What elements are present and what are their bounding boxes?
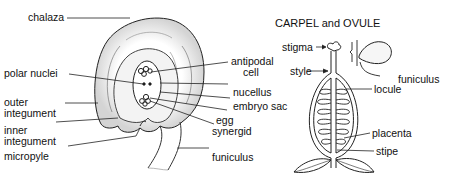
- label-antipodal-cell-line2: cell: [243, 67, 259, 78]
- label-nucellus: nucellus: [233, 87, 272, 98]
- label-style: style: [290, 66, 312, 77]
- right-leaf: [336, 159, 374, 173]
- carpel-title: CARPEL and OVULE: [275, 17, 380, 29]
- label-chalaza: chalaza: [28, 12, 64, 23]
- label-inner-integument-line2: integument: [4, 136, 56, 147]
- label-synergid: synergid: [212, 126, 252, 137]
- ovule-illustration: [56, 18, 230, 170]
- style-shape: [331, 51, 336, 73]
- label-outer-integument-line2: integument: [4, 108, 56, 119]
- label-micropyle: micropyle: [4, 151, 49, 162]
- label-placenta: placenta: [372, 128, 412, 139]
- label-locule: locule: [374, 84, 401, 95]
- label-embryo-sac: embryo sac: [233, 101, 287, 112]
- label-stipe: stipe: [376, 146, 398, 157]
- embryo-sac-shape: [133, 61, 161, 109]
- label-polar-nuclei: polar nuclei: [4, 68, 58, 79]
- label-funiculus-ovule: funiculus: [212, 152, 253, 163]
- label-funiculus-carpel: funiculus: [398, 74, 439, 85]
- label-stigma: stigma: [282, 42, 313, 53]
- inset-ovule: [359, 42, 391, 64]
- ovary-wall: [309, 73, 357, 168]
- stigma-shape: [327, 42, 340, 51]
